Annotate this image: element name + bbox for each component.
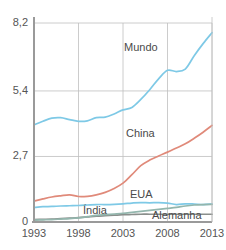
y-tick-label: 0 (0, 215, 28, 227)
axes (32, 17, 212, 222)
series-label-eua: EUA (130, 188, 153, 200)
series-label-china: China (126, 127, 155, 139)
x-tick-label: 1998 (59, 227, 99, 239)
y-tick-label: 5,4 (0, 84, 28, 96)
series-label-ndia: Índia (83, 204, 107, 216)
line-chart: 02,75,48,2 19931998200320082013 MundoChi… (0, 0, 226, 250)
y-tick-label: 2,7 (0, 149, 28, 161)
x-tick-label: 2008 (148, 227, 188, 239)
series-label-mundo: Mundo (124, 41, 158, 53)
x-tick-label: 2003 (103, 227, 143, 239)
x-tick-label: 2013 (192, 227, 226, 239)
y-tick-label: 8,2 (0, 16, 28, 28)
gridlines (34, 23, 212, 222)
series-label-alemanha: Alemanha (152, 209, 202, 221)
x-tick-label: 1993 (14, 227, 54, 239)
